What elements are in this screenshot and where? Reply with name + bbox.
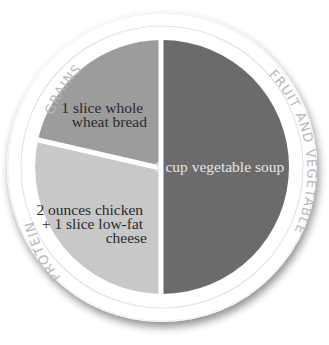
plate-diagram: GRAINS FRUIT AND VEGETABLE PROTEIN 1 sli… — [0, 0, 329, 345]
grains-food-text: 1 slice whole wheat bread — [61, 99, 147, 130]
fruit-vegetable-food-text: 1 cup vegetable soup — [154, 158, 285, 175]
